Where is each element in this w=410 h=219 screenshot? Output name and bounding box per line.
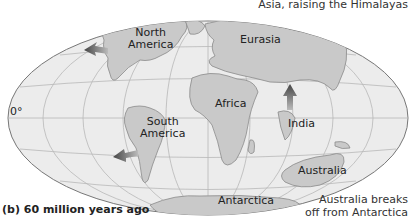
equator-label: 0° — [10, 106, 23, 118]
label-australia: Australia — [298, 165, 347, 177]
label-eurasia: Eurasia — [240, 34, 281, 46]
figure-caption: (b) 60 million years ago — [2, 203, 149, 216]
label-north-america: North America — [128, 27, 173, 51]
label-india: India — [288, 118, 315, 130]
world-map — [0, 0, 410, 219]
label-antarctica: Antarctica — [218, 195, 274, 207]
annotation-australia-line2: off from Antarctica — [305, 206, 408, 219]
label-south-america-line2: America — [140, 128, 185, 140]
annotation-australia: Australia breaks off from Antarctica — [305, 193, 408, 219]
label-north-america-line2: America — [128, 39, 173, 51]
annotation-himalayas: Asia, raising the Himalayas — [258, 0, 408, 11]
label-africa: Africa — [215, 98, 246, 110]
annotation-australia-line1: Australia breaks — [305, 193, 408, 206]
label-south-america: South America — [140, 116, 185, 140]
